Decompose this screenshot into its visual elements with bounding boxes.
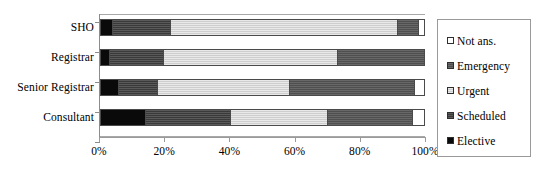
bar-row: [100, 19, 425, 36]
chart-legend: Not ans.EmergencyUrgentScheduledElective: [437, 19, 531, 157]
bar-segment-urgent: [230, 110, 327, 125]
legend-item-elective[interactable]: Elective: [447, 128, 530, 153]
plot-area: [99, 14, 425, 137]
category-tick: [95, 142, 100, 143]
bar-segment-scheduled: [109, 50, 163, 65]
bar-segment-scheduled: [118, 80, 157, 95]
bar-segment-notans: [412, 110, 424, 125]
category-label-3: Senior Registrar: [0, 81, 94, 93]
legend-swatch-emergency-icon: [447, 62, 454, 69]
bar-row: [100, 109, 425, 126]
bar-segment-urgent: [163, 50, 336, 65]
bar-row: [100, 79, 425, 96]
category-label-2: Registrar: [0, 51, 94, 63]
bar-segment-elective: [101, 50, 109, 65]
value-tick: [425, 137, 426, 142]
legend-item-urgent[interactable]: Urgent: [447, 78, 530, 103]
value-tick-label: 60%: [284, 145, 305, 158]
bar-segment-notans: [418, 20, 424, 35]
bar-segment-emergency: [397, 20, 417, 35]
bar-segment-emergency: [327, 110, 412, 125]
value-tick: [164, 137, 165, 142]
category-tick: [95, 112, 100, 113]
category-axis-labels: SHORegistrarSenior RegistrarConsultant: [0, 0, 94, 171]
legend-item-notans[interactable]: Not ans.: [447, 28, 530, 53]
category-label-1: SHO: [0, 21, 94, 33]
legend-label: Urgent: [457, 85, 489, 97]
category-tick: [95, 22, 100, 23]
bar-segment-urgent: [170, 20, 397, 35]
value-tick: [295, 137, 296, 142]
value-tick-label: 0%: [91, 145, 107, 158]
value-tick-label: 20%: [153, 145, 174, 158]
value-tick: [99, 137, 100, 142]
legend-label: Elective: [457, 135, 495, 147]
value-tick: [360, 137, 361, 142]
stacked-bar-chart: SHORegistrarSenior RegistrarConsultant 0…: [0, 0, 540, 171]
bar-segment-elective: [101, 20, 112, 35]
legend-item-scheduled[interactable]: Scheduled: [447, 103, 530, 128]
bar-segment-scheduled: [112, 20, 170, 35]
legend-swatch-scheduled-icon: [447, 112, 454, 119]
legend-item-emergency[interactable]: Emergency: [447, 53, 530, 78]
bar-segment-elective: [101, 80, 118, 95]
value-tick: [229, 137, 230, 142]
legend-swatch-urgent-icon: [447, 87, 454, 94]
value-axis-line: [99, 137, 425, 138]
bar-row: [100, 49, 425, 66]
legend-label: Scheduled: [457, 110, 506, 122]
bar-segment-elective: [101, 110, 145, 125]
legend-label: Not ans.: [457, 35, 496, 47]
bar-segment-scheduled: [145, 110, 231, 125]
plot-frame-top-line: [99, 14, 425, 15]
bar-segment-notans: [414, 80, 424, 95]
bar-segment-emergency: [337, 50, 424, 65]
legend-swatch-elective-icon: [447, 137, 454, 144]
bar-segment-emergency: [289, 80, 414, 95]
category-tick: [95, 82, 100, 83]
category-tick: [95, 52, 100, 53]
value-tick-label: 40%: [219, 145, 240, 158]
legend-label: Emergency: [457, 60, 510, 72]
bar-segment-urgent: [157, 80, 290, 95]
category-label-4: Consultant: [0, 111, 94, 123]
value-tick-label: 80%: [349, 145, 370, 158]
legend-swatch-notans-icon: [447, 37, 454, 44]
value-tick-label: 100%: [411, 145, 438, 158]
